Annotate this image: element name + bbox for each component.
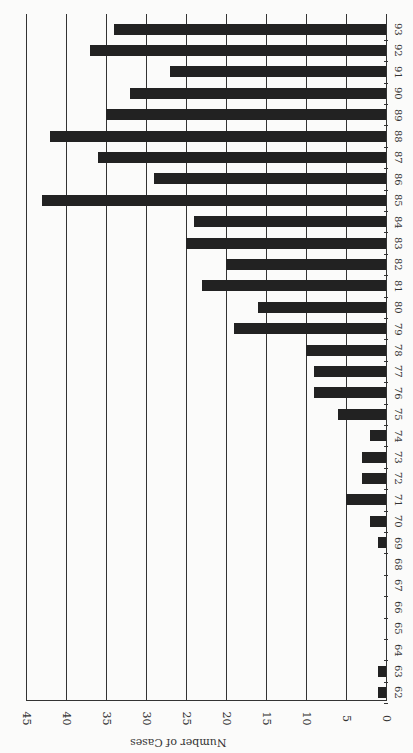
category-tick	[384, 190, 388, 191]
category-tick	[384, 446, 388, 447]
category-label: 82	[393, 258, 404, 271]
category-tick	[384, 703, 388, 704]
category-tick	[384, 83, 388, 84]
category-tick	[384, 125, 388, 126]
category-tick	[384, 297, 388, 298]
category-tick	[384, 254, 388, 255]
category-label: 64	[393, 644, 404, 657]
category-tick	[384, 318, 388, 319]
category-tick	[384, 339, 388, 340]
value-axis-line	[26, 700, 387, 701]
category-label: 92	[393, 44, 404, 57]
category-label: 84	[393, 216, 404, 229]
category-label: 75	[393, 408, 404, 421]
axis-label-number-of-cases: Number of Cases	[130, 736, 226, 749]
bar-91	[170, 66, 386, 77]
category-label: 78	[393, 344, 404, 357]
category-tick	[384, 275, 388, 276]
bar-74	[370, 430, 386, 441]
bar-77	[314, 366, 386, 377]
bar-70	[370, 516, 386, 527]
value-axis-tick-label: 25	[180, 709, 193, 729]
category-tick	[384, 660, 388, 661]
bar-79	[234, 323, 386, 334]
bar-62	[378, 687, 386, 698]
category-label: 66	[393, 601, 404, 614]
category-tick	[384, 211, 388, 212]
category-label: 71	[393, 494, 404, 507]
bar-87	[98, 152, 386, 163]
category-label: 83	[393, 237, 404, 250]
bar-93	[114, 24, 386, 35]
bar-72	[362, 473, 386, 484]
value-axis-tick-label: 20	[220, 709, 233, 729]
category-tick	[384, 382, 388, 383]
category-label: 76	[393, 387, 404, 400]
bar-86	[154, 173, 386, 184]
category-tick	[384, 596, 388, 597]
category-tick	[384, 361, 388, 362]
category-tick	[384, 425, 388, 426]
category-label: 91	[393, 66, 404, 79]
category-tick	[384, 618, 388, 619]
bar-85	[42, 195, 386, 206]
bar-76	[314, 387, 386, 398]
value-axis-tick-label: 15	[260, 709, 273, 729]
category-label: 85	[393, 194, 404, 207]
value-axis-tick-label: 30	[140, 709, 153, 729]
category-tick	[384, 104, 388, 105]
category-label: 72	[393, 472, 404, 485]
bar-75	[338, 409, 386, 420]
bar-82	[226, 259, 386, 270]
bar-69	[378, 537, 386, 548]
category-label: 68	[393, 558, 404, 571]
category-label: 63	[393, 665, 404, 678]
bar-73	[362, 452, 386, 463]
category-tick	[384, 147, 388, 148]
category-label: 73	[393, 451, 404, 464]
category-tick	[384, 553, 388, 554]
category-label: 67	[393, 579, 404, 592]
category-tick	[384, 511, 388, 512]
value-axis-tick-label: 0	[380, 709, 393, 729]
gridline	[26, 14, 27, 700]
bar-80	[258, 302, 386, 313]
category-label: 88	[393, 130, 404, 143]
gridline	[66, 14, 67, 700]
category-tick	[384, 575, 388, 576]
category-tick	[384, 40, 388, 41]
bar-78	[306, 345, 386, 356]
category-label: 93	[393, 23, 404, 36]
bar-81	[202, 280, 386, 291]
category-label: 90	[393, 87, 404, 100]
value-axis-tick-label: 40	[60, 709, 73, 729]
category-label: 77	[393, 365, 404, 378]
value-axis-tick-label: 45	[20, 709, 33, 729]
category-label: 80	[393, 301, 404, 314]
category-axis-line	[386, 14, 387, 701]
category-label: 62	[393, 686, 404, 699]
bar-chart: 0510152025303540456263646566676869707172…	[0, 0, 413, 753]
bar-83	[186, 238, 386, 249]
category-tick	[384, 168, 388, 169]
bar-88	[50, 131, 386, 142]
bar-63	[378, 666, 386, 677]
category-tick	[384, 682, 388, 683]
bar-89	[106, 109, 386, 120]
category-label: 69	[393, 537, 404, 550]
category-tick	[384, 404, 388, 405]
bar-71	[346, 494, 386, 505]
category-label: 86	[393, 173, 404, 186]
category-label: 70	[393, 515, 404, 528]
category-label: 79	[393, 323, 404, 336]
category-label: 65	[393, 622, 404, 635]
category-tick	[384, 489, 388, 490]
bar-90	[130, 88, 386, 99]
category-tick	[384, 639, 388, 640]
bar-84	[194, 216, 386, 227]
category-label: 87	[393, 151, 404, 164]
category-label: 74	[393, 430, 404, 443]
category-tick	[384, 532, 388, 533]
value-axis-tick-label: 10	[300, 709, 313, 729]
category-tick	[384, 468, 388, 469]
